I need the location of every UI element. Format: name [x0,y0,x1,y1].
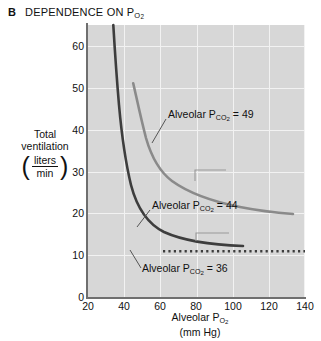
x-tick-label: 20 [73,300,103,312]
y-tick-label: 50 [60,82,84,94]
x-axis-line [86,297,306,299]
annotation-pco2-49: Alveolar PCO2 = 49 [168,108,254,122]
gridline-horizontal [88,213,305,214]
figure-panel-b: B DEPENDENCE ON PO2 0 [0,0,321,341]
plot-area [88,25,305,297]
y-axis-title-line1: Total [4,128,86,140]
annotation-pco2-44: Alveolar PCO2 = 44 [152,199,238,213]
gridline-horizontal [88,88,305,89]
gridline-vertical [269,25,270,297]
x-axis-title: Alveolar PO2 (mm Hg) [120,311,280,339]
gridline-horizontal [88,46,305,47]
gridline-vertical [197,25,198,297]
x-axis-title-text: Alveolar PO2 [120,311,280,326]
y-axis-units-fraction: ( liters min ) [4,154,86,180]
y-tick-label: 10 [60,249,84,261]
y-axis-title: Total ventilation ( liters min ) [4,128,86,180]
right-paren: ) [60,155,68,179]
panel-letter: B [8,6,16,18]
gridline-vertical [124,25,125,297]
gridline-vertical [304,25,305,297]
left-paren: ( [22,155,30,179]
y-axis-line [86,23,88,299]
gridline-vertical [160,25,161,297]
gridline-horizontal [88,130,305,131]
x-tick-label: 140 [290,300,320,312]
gridline-horizontal [88,172,305,173]
annotation-pco2-36: Alveolar PCO2 = 36 [142,262,228,276]
x-axis-units: (mm Hg) [120,326,280,339]
gridline-vertical [233,25,234,297]
y-axis-title-line2: ventilation [4,140,86,152]
y-tick-label: 20 [60,207,84,219]
panel-title: DEPENDENCE ON PO2 [25,6,144,20]
fraction-denominator: min [32,166,58,179]
y-tick-label: 60 [60,40,84,52]
gridline-horizontal [88,255,305,256]
fraction-numerator: liters [32,154,58,166]
